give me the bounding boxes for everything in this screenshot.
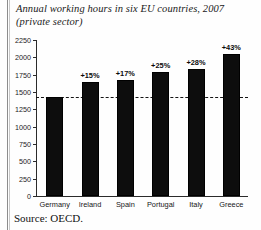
y-tick-label: 2250 — [15, 36, 31, 45]
y-tick-mark — [33, 92, 37, 93]
y-tick-mark — [33, 127, 37, 128]
bar-value-label: +15% — [80, 71, 99, 80]
category-label: Spain — [116, 200, 135, 209]
y-tick-mark — [33, 161, 37, 162]
y-tick-label: 1500 — [15, 88, 31, 97]
y-tick-label: 1750 — [15, 70, 31, 79]
y-tick-label: 1000 — [15, 122, 31, 131]
category-label: Greece — [219, 200, 243, 209]
reference-line — [36, 97, 248, 98]
bar-value-label: +28% — [186, 58, 205, 67]
y-tick: 1750 — [36, 75, 40, 76]
bar-value-label: +43% — [222, 43, 241, 52]
y-tick-label: 250 — [19, 174, 31, 183]
bar-value-label: +25% — [151, 61, 170, 70]
y-tick-label: 750 — [19, 140, 31, 149]
page-margin-rule — [7, 0, 8, 230]
y-tick: 250 — [36, 179, 40, 180]
page-margin-rule-secondary — [9, 0, 10, 230]
source-note: Source: OECD. — [14, 212, 83, 224]
plot-area: 0250500750100012501500175020002250 +15%+… — [36, 40, 248, 196]
chart-title: Annual working hours in six EU countries… — [16, 3, 254, 28]
y-tick-label: 1250 — [15, 105, 31, 114]
y-tick-mark — [33, 57, 37, 58]
y-tick: 2250 — [36, 40, 40, 41]
y-axis — [36, 40, 37, 197]
bar — [82, 82, 99, 196]
y-tick-mark — [33, 179, 37, 180]
y-tick: 0 — [36, 196, 40, 197]
y-tick-mark — [33, 109, 37, 110]
bar-value-label: +17% — [116, 69, 135, 78]
y-tick: 1500 — [36, 92, 40, 93]
bar — [223, 54, 240, 196]
chart-figure: Annual working hours in six EU countries… — [0, 0, 261, 230]
y-tick-label: 500 — [19, 157, 31, 166]
y-tick-label: 2000 — [15, 53, 31, 62]
x-axis — [36, 196, 248, 197]
category-label: Portugal — [147, 200, 175, 209]
y-tick: 500 — [36, 161, 40, 162]
y-tick: 1250 — [36, 109, 40, 110]
bar — [117, 80, 134, 196]
y-tick-mark — [33, 144, 37, 145]
y-tick-mark — [33, 75, 37, 76]
y-tick-mark — [33, 196, 37, 197]
category-label: Germany — [39, 200, 69, 209]
bar — [152, 72, 169, 196]
bar — [188, 69, 205, 196]
y-tick: 750 — [36, 144, 40, 145]
y-tick: 2000 — [36, 57, 40, 58]
category-label: Italy — [189, 200, 203, 209]
y-tick-label: 0 — [27, 192, 31, 201]
bar — [46, 97, 63, 196]
y-tick: 1000 — [36, 127, 40, 128]
category-label: Ireland — [79, 200, 102, 209]
y-tick-mark — [33, 40, 37, 41]
